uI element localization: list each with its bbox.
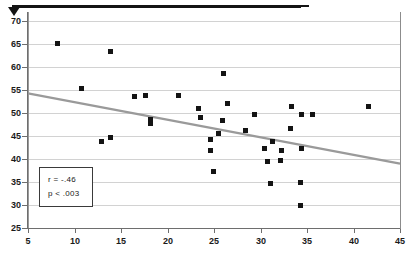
data-point [208,137,213,142]
data-point [211,169,216,174]
y-axis-tick-label: 35 [0,178,21,187]
y-axis-tick-label: 65 [0,40,21,49]
y-axis-line-inner [28,12,29,229]
data-point [268,181,273,186]
data-point [99,139,104,144]
data-point [196,106,201,111]
x-axis-tick-label: 5 [15,236,41,246]
pvalue-text: p < .003 [48,187,92,201]
data-point [108,49,113,54]
data-point [108,135,113,140]
y-axis-tick-label: 50 [0,109,21,118]
data-point [79,86,84,91]
data-point [298,203,303,208]
chart-canvas: 25303540455055606570 51015202530354045 r… [0,0,414,253]
data-point [148,121,153,126]
y-axis-tick-label: 40 [0,155,21,164]
x-axis-tick-label: 15 [108,236,134,246]
data-point [208,148,213,153]
plot-right-border [400,12,401,229]
y-axis-tick-label: 55 [0,86,21,95]
data-point [289,104,294,109]
data-point [55,41,60,46]
x-axis-line [27,228,401,229]
data-point [299,146,304,151]
data-point [366,104,371,109]
top-rule-bar-cap [301,5,309,7]
x-axis-tick-label: 45 [387,236,413,246]
data-point [265,159,270,164]
data-point [310,112,315,117]
data-point [299,112,304,117]
data-point [288,126,293,131]
data-point [132,94,137,99]
pointer-triangle-icon [8,7,20,16]
data-point [279,148,284,153]
correlation-value: r = -.46 [48,173,92,187]
x-axis-tick-label: 25 [201,236,227,246]
data-point [216,131,221,136]
x-axis-tick-label: 20 [155,236,181,246]
data-point [243,128,248,133]
data-point [198,115,203,120]
data-point [252,112,257,117]
y-axis-tick-label: 25 [0,224,21,233]
data-point [278,158,283,163]
y-axis-tick-label: 60 [0,63,21,72]
y-axis-tick-label: 30 [0,201,21,210]
x-axis-tick-label: 10 [62,236,88,246]
data-point [221,71,226,76]
data-point [220,118,225,123]
statistics-annotation-box: r = -.46 p < .003 [39,167,93,207]
x-axis-tick-label: 35 [294,236,320,246]
data-point [262,146,267,151]
y-axis-tick-label: 70 [0,17,21,26]
data-point [298,180,303,185]
x-axis-tick-label: 40 [341,236,367,246]
y-axis-tick-label: 45 [0,132,21,141]
data-point [270,139,275,144]
x-axis-tick-label: 30 [248,236,274,246]
data-point [225,101,230,106]
top-rule-bar [12,5,301,8]
data-point [143,93,148,98]
data-point [176,93,181,98]
